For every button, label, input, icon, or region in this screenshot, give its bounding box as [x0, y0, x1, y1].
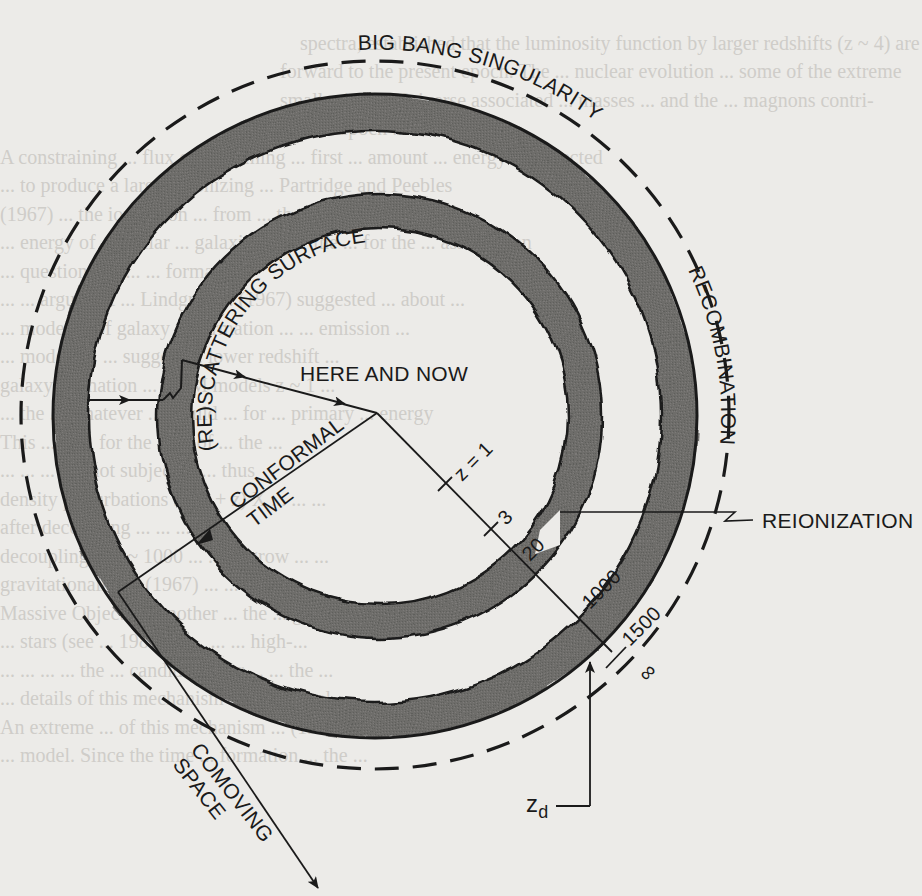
- zd-marker: [556, 662, 590, 806]
- rescattering-label: (RE)SCATTERING SURFACE: [193, 223, 367, 453]
- zd-subscript: d: [538, 802, 548, 822]
- zd-main: z: [526, 790, 538, 817]
- z1-label: z = 1: [449, 437, 497, 485]
- page: spectra, established that the luminosity…: [0, 0, 922, 896]
- comoving-space-axis: [118, 592, 318, 888]
- spacetime-diagram: BIG BANG SINGULARITY (RE)SCATTERING SURF…: [0, 0, 922, 896]
- here-and-now-label: HERE AND NOW: [300, 362, 468, 385]
- z-infinity-label: ∞: [633, 658, 662, 687]
- zd-label: zd: [526, 790, 549, 822]
- reionization-label: REIONIZATION: [762, 509, 913, 532]
- z3-label: 3: [493, 505, 517, 529]
